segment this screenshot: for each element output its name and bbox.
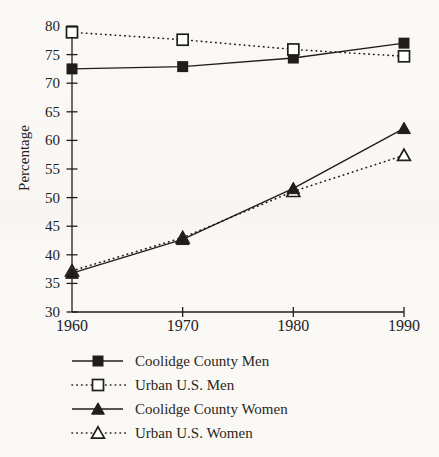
open-square-marker [177, 34, 188, 45]
x-tick-label: 1960 [56, 317, 88, 334]
legend-label: Coolidge County Men [135, 353, 270, 369]
series-line [72, 43, 404, 69]
series-line [72, 32, 404, 56]
legend-sample-urban-us-women [72, 427, 127, 438]
x-tick-label: 1980 [277, 317, 309, 334]
y-tick-label: 50 [45, 190, 60, 206]
y-axis-title: Percentage [16, 125, 32, 191]
series-line [72, 155, 404, 271]
y-tick-label: 65 [45, 104, 60, 120]
plot-area: 30354045505560657075801960197019801990 [45, 18, 420, 334]
legend-label: Urban U.S. Women [135, 425, 253, 441]
legend-sample-coolidge-county-men [72, 356, 123, 367]
filled-triangle-marker [287, 182, 300, 193]
legend: Coolidge County Men Urban U.S. Men Cooli… [72, 353, 288, 441]
legend-sample-urban-us-men [72, 380, 127, 391]
filled-square-marker [67, 63, 78, 74]
legend-item-urban-us-women: Urban U.S. Women [72, 425, 253, 441]
series-filled-triangle [66, 122, 411, 278]
open-triangle-marker [398, 149, 411, 160]
x-tick-label: 1990 [388, 317, 420, 334]
y-tick-label: 35 [45, 275, 60, 291]
y-tick-label: 55 [45, 161, 60, 177]
line-chart: Percentage 30354045505560657075801960197… [0, 0, 439, 457]
legend-item-urban-us-men: Urban U.S. Men [72, 377, 235, 393]
filled-triangle-marker [398, 122, 411, 133]
y-tick-label: 70 [45, 75, 60, 91]
legend-sample-coolidge-county-women [72, 403, 123, 414]
legend-item-coolidge-county-men: Coolidge County Men [72, 353, 270, 369]
legend-label: Urban U.S. Men [135, 377, 235, 393]
y-tick-label: 80 [45, 18, 60, 34]
open-square-marker [288, 44, 299, 55]
legend-label: Coolidge County Women [135, 401, 288, 417]
filled-square-marker [399, 38, 410, 49]
y-tick-label: 45 [45, 218, 60, 234]
y-tick-label: 75 [45, 47, 60, 63]
legend-item-coolidge-county-women: Coolidge County Women [72, 401, 288, 417]
series-line [72, 128, 404, 273]
open-square-marker [67, 27, 78, 38]
filled-square-marker [177, 61, 188, 72]
open-square-marker [93, 380, 104, 391]
x-tick-label: 1970 [167, 317, 199, 334]
y-tick-label: 60 [45, 132, 60, 148]
filled-square-marker [93, 356, 104, 367]
open-triangle-marker [92, 427, 105, 438]
scanned-chart-figure: Percentage 30354045505560657075801960197… [0, 0, 439, 457]
series-open-triangle [66, 149, 411, 276]
open-square-marker [399, 51, 410, 62]
y-tick-label: 40 [45, 247, 60, 263]
series-filled-square [67, 38, 410, 75]
series-open-square [67, 27, 410, 62]
